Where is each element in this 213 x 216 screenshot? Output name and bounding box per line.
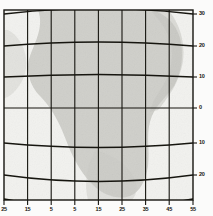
x-tick-label-15E: 15 [96,207,102,213]
y-tick-label-10N: 10 [199,74,205,80]
x-tick-label-5W: 5 [50,207,53,213]
y-tick-label-30N: 30 [199,11,205,17]
x-tick-label-35E: 35 [143,207,149,213]
x-tick-label-25E: 25 [119,207,125,213]
x-tick-label-15W: 15 [25,207,31,213]
x-tick-label-5E: 5 [73,207,76,213]
x-tick-label-25W: 25 [1,207,7,213]
map-canvas [0,0,213,216]
graticule-map-figure: 25 15 5 5 15 25 35 45 55 30 20 10 0 10 2… [0,0,213,216]
x-axis-ticks [4,200,193,205]
x-tick-label-45E: 45 [166,207,172,213]
y-tick-label-10S: 10 [199,140,205,146]
y-tick-label-20N: 20 [199,43,205,49]
y-tick-label-20S: 20 [199,172,205,178]
y-tick-label-0: 0 [199,105,202,111]
x-tick-label-55E: 55 [190,207,196,213]
